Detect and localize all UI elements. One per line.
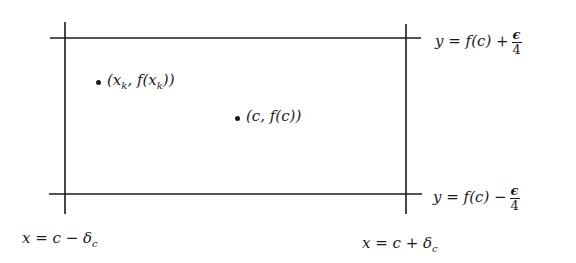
label-part: )) [163, 71, 175, 89]
bottom-line-label: y = f(c) −ϵ4 [433, 184, 520, 212]
left-line-label: x = c − δc [22, 231, 98, 249]
left-line-equation: x = c − δ [22, 229, 92, 247]
label-part: , f(x [127, 71, 156, 89]
point-c-label: (c, f(c)) [246, 109, 301, 124]
point-xk-label: (xk, f(xk)) [107, 73, 175, 91]
epsilon-over-four: ϵ4 [512, 28, 522, 56]
point-c-marker [235, 116, 240, 121]
frac-denominator: 4 [512, 43, 522, 57]
bottom-line-equation: y = f(c) − [433, 188, 507, 206]
right-line-equation: x = c + δ [362, 234, 432, 252]
frac-denominator: 4 [510, 199, 520, 213]
right-line-label: x = c + δc [362, 236, 438, 254]
top-line-label: y = f(c) +ϵ4 [435, 28, 522, 56]
epsilon-over-four: ϵ4 [510, 184, 520, 212]
point-xk-marker [96, 80, 101, 85]
frac-numerator: ϵ [510, 184, 520, 199]
subscript: c [92, 238, 98, 249]
frac-numerator: ϵ [512, 28, 522, 43]
top-line-equation: y = f(c) + [435, 32, 509, 50]
subscript: c [432, 243, 438, 254]
label-part: (x [107, 71, 121, 89]
